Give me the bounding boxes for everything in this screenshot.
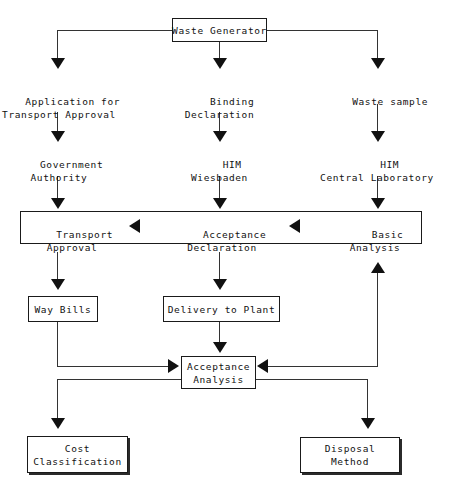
node-cost-classification-label: Cost Classification [33, 442, 121, 468]
node-cost-classification: Cost Classification [27, 436, 128, 473]
edge-acceptance-to-cost-vertical [57, 379, 58, 421]
node-delivery-to-plant: Delivery to Plant [163, 296, 280, 322]
node-basic-analysis: Basic Analysis [330, 215, 420, 267]
edge-generator-bus-left [57, 30, 173, 31]
arrowhead-declaration-to-approval [129, 219, 140, 233]
edge-acceptance-to-cost-horizontal [57, 379, 181, 380]
arrowhead-to-sample [371, 58, 385, 69]
arrowhead-to-way-bills [51, 279, 65, 290]
arrowhead-to-him-central-laboratory [371, 131, 385, 142]
node-application-transport-approval: Application for Transport Approval [0, 82, 118, 134]
node-acceptance-analysis-label: Acceptance Analysis [187, 360, 250, 386]
node-delivery-to-plant-label: Delivery to Plant [168, 303, 275, 316]
node-acceptance-declaration: Acceptance Declaration [167, 215, 277, 267]
edge-acceptance-to-disposal-vertical [367, 379, 368, 421]
node-him-wiesbaden-label: HIM Wiesbaden [191, 159, 248, 183]
node-disposal-method: Disposal Method [300, 437, 400, 473]
arrowhead-to-binding [213, 58, 227, 69]
node-waste-sample: Waste sample [320, 82, 435, 121]
edge-acceptance-to-disposal-horizontal [256, 379, 368, 380]
node-binding-declaration: Binding Declaration [162, 82, 277, 134]
node-waste-generator-label: Waste Generator [172, 24, 267, 37]
node-transport-approval-label: Transport Approval [47, 229, 113, 253]
node-government-authority: Government Authority [0, 145, 118, 197]
node-way-bills-label: Way Bills [35, 303, 92, 316]
node-government-authority-label: Government Authority [31, 159, 104, 183]
node-waste-generator: Waste Generator [172, 18, 267, 42]
edge-generator-bus-right [267, 30, 377, 31]
edge-delivery-to-acceptance-stem [219, 322, 220, 344]
node-disposal-method-label: Disposal Method [325, 442, 376, 468]
arrowhead-to-basic-analysis [371, 198, 385, 209]
arrowhead-to-application [51, 58, 65, 69]
node-him-wiesbaden: HIM Wiesbaden [162, 145, 277, 197]
node-basic-analysis-label: Basic Analysis [350, 229, 404, 253]
edge-acceptance-feedback-vertical [377, 272, 378, 366]
arrowhead-to-cost-classification [51, 418, 65, 429]
edge-waybills-down-stem [57, 322, 58, 366]
flowchart-canvas: Waste Generator Application for Transpor… [0, 0, 450, 484]
edge-generator-to-application-stem [57, 30, 58, 60]
arrowhead-to-transport-approval [51, 198, 65, 209]
arrowhead-to-acceptance-declaration [213, 198, 227, 209]
node-him-central-laboratory-label: HIM Central Laboratory [320, 159, 434, 183]
node-acceptance-analysis: Acceptance Analysis [181, 356, 256, 389]
node-acceptance-declaration-label: Acceptance Declaration [187, 229, 266, 253]
arrowhead-to-disposal-method [361, 418, 375, 429]
node-transport-approval: Transport Approval [22, 215, 122, 267]
node-application-transport-approval-label: Application for Transport Approval [2, 96, 120, 120]
arrowhead-waybills-to-acceptance-analysis [168, 359, 179, 373]
node-binding-declaration-label: Binding Declaration [185, 96, 255, 120]
edge-waybills-to-acceptance-analysis [57, 366, 169, 367]
node-way-bills: Way Bills [28, 296, 98, 322]
edge-generator-to-sample-stem [377, 30, 378, 60]
arrowhead-to-delivery-to-plant [213, 279, 227, 290]
arrowhead-delivery-to-acceptance-analysis [213, 342, 227, 353]
arrowhead-analysis-to-declaration [289, 219, 300, 233]
node-waste-sample-label: Waste sample [352, 96, 428, 107]
edge-acceptance-feedback-horizontal [268, 366, 378, 367]
node-him-central-laboratory: HIM Central Laboratory [307, 145, 447, 197]
arrowhead-feedback-into-acceptance-analysis [257, 359, 268, 373]
